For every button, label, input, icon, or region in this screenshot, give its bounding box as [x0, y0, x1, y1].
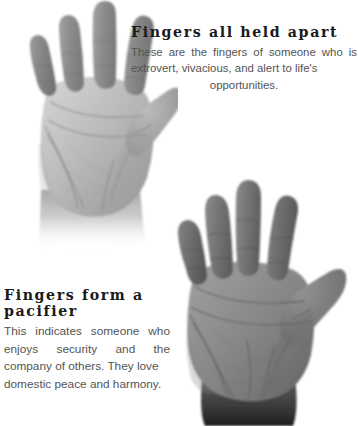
entry-body-fingers-form-a-pacifier: This indicates someone who enjoys securi…: [4, 323, 170, 411]
entry-title-fingers-all-held-apart: Fingers all held apart: [131, 25, 357, 41]
entry-body-text: These are the fingers of someone who is …: [131, 46, 357, 75]
entry-body-last-line: domestic peace and harmony.: [4, 376, 170, 394]
entry-fingers-all-held-apart: Fingers all held apart These are the fin…: [131, 25, 357, 110]
entry-body-last-line: opportunities.: [131, 77, 357, 94]
entry-title-fingers-form-a-pacifier: Fingers form a pacifier: [4, 288, 170, 320]
palmistry-figure-page: Fingers all held apart These are the fin…: [0, 0, 358, 426]
entry-fingers-form-a-pacifier: Fingers form a pacifier This indicates s…: [4, 288, 170, 411]
hand-pacifier-illustration: [157, 173, 357, 426]
open-palm-photograph-fingers-pacifier: [157, 173, 357, 426]
entry-body-text: This indicates someone who enjoys securi…: [4, 324, 170, 373]
entry-body-fingers-all-held-apart: These are the fingers of someone who is …: [131, 44, 357, 110]
